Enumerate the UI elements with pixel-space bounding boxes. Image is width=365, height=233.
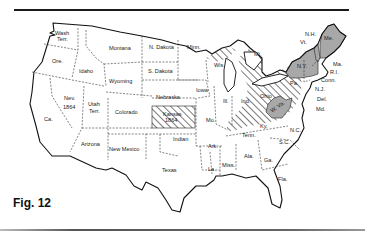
hatched-region-east (226, 48, 302, 132)
label-minn: Minn. (187, 44, 201, 50)
label-vt: Vt. (300, 39, 307, 45)
label-ny: N.Y. (297, 63, 308, 69)
label-miss: Miss. (222, 162, 235, 168)
label-mo: Mo. (206, 117, 216, 123)
label-conn: Conn. (321, 77, 336, 83)
label-iowa: Iowa (196, 87, 209, 93)
label-new-mexico: New Mexico (109, 146, 139, 152)
label-wash-terr: Terr. (57, 36, 68, 42)
label-tenn: Tenn. (242, 132, 256, 138)
label-nebraska: Nebraska (156, 94, 181, 100)
label-md: Md. (316, 106, 326, 112)
label-me: Me. (324, 35, 334, 41)
label-nj: N.J. (315, 86, 325, 92)
label-montana: Montana (109, 45, 132, 51)
label-s-dakota: S. Dakota (148, 68, 173, 74)
label-utah: Utah (88, 101, 100, 107)
lake-michigan (224, 58, 236, 92)
label-n-dakota: N. Dakota (149, 44, 175, 50)
label-pa: Pa. (290, 80, 299, 86)
label-colorado: Colorado (115, 109, 138, 115)
us-map: Wash Terr. Ore. Idaho Montana Wyoming Ne… (0, 0, 365, 233)
label-ark: Ark. (208, 143, 218, 149)
label-wyoming: Wyoming (109, 78, 132, 84)
label-ohio: Ohio (260, 93, 272, 99)
label-nh: N.H. (305, 31, 317, 37)
bottom-rule (0, 229, 365, 231)
label-indian: Indian (173, 136, 188, 142)
label-ind: Ind. (241, 98, 251, 104)
label-ky: Ky. (260, 123, 268, 129)
label-ala: Ala. (244, 153, 254, 159)
label-la: La. (208, 166, 216, 172)
label-sc: S.C. (279, 139, 290, 145)
label-utah-terr: Terr. (89, 108, 100, 114)
figure-caption: Fig. 12 (13, 196, 51, 210)
label-ore: Ore. (52, 58, 63, 64)
label-wis: Wis. (214, 62, 225, 68)
label-del: Del. (317, 96, 327, 102)
label-texas: Texas (162, 167, 177, 173)
label-kansas-year: 1864 (165, 117, 177, 123)
label-nev: Nev. (64, 95, 76, 101)
label-nev-year: 1864 (63, 104, 75, 110)
label-fla: Fla. (278, 176, 288, 182)
label-arizona: Arizona (81, 141, 101, 147)
label-ga: Ga. (264, 157, 273, 163)
hatched-michigan-upper (206, 47, 236, 62)
label-mich: Mi. (254, 51, 262, 57)
label-ma: Ma. (333, 61, 343, 67)
label-nc: N.C. (290, 127, 302, 133)
label-ca: Ca. (44, 116, 53, 122)
label-idaho: Idaho (79, 68, 93, 74)
label-ill: Ill. (223, 98, 229, 104)
label-ri: R.I. (330, 69, 339, 75)
